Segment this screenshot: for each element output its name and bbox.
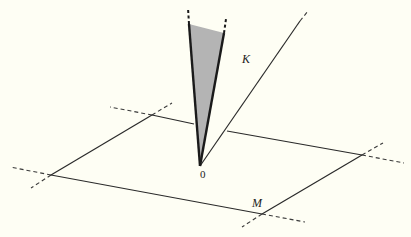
label-k: K xyxy=(241,52,251,66)
wedge-ext-right xyxy=(224,19,226,33)
wedge-ext-left xyxy=(188,8,189,24)
plane-ext-tl-up xyxy=(152,103,172,115)
label-origin: 0 xyxy=(200,168,206,180)
plane-ext-bl-left xyxy=(10,167,51,175)
shaded-wedge xyxy=(188,8,226,166)
plane-edge-bottom xyxy=(51,175,262,214)
ray-dashed-end xyxy=(300,11,308,21)
plane-edge-right xyxy=(262,155,362,214)
plane-ext-r-right xyxy=(362,155,404,163)
label-m: M xyxy=(251,196,263,210)
plane-ext-r-up xyxy=(362,143,383,155)
cone-plane-diagram: K M 0 xyxy=(0,0,411,237)
plane-edge-top-right xyxy=(227,131,362,155)
plane-edge-left xyxy=(51,115,152,175)
plane-edge-top-left xyxy=(152,115,194,124)
plane-ext-bl-down xyxy=(31,175,51,188)
plane-ext-b-down xyxy=(242,214,262,227)
plane-ext-tl-left xyxy=(110,107,152,115)
plane-ext-b-right xyxy=(262,214,305,222)
